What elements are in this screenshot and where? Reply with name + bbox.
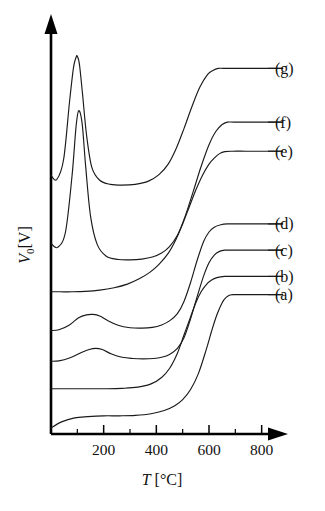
x-axis-title: T [°C] bbox=[142, 471, 183, 488]
x-tick-label-400: 400 bbox=[145, 441, 169, 458]
x-axis-unit: [°C] bbox=[155, 471, 183, 488]
series-label-b: (b) bbox=[275, 268, 294, 286]
x-tick-label-600: 600 bbox=[197, 441, 221, 458]
x-tick-label-800: 800 bbox=[250, 441, 274, 458]
series-label-e: (e) bbox=[275, 143, 293, 161]
series-label-c: (c) bbox=[275, 242, 293, 260]
series-label-a: (a) bbox=[275, 286, 293, 304]
series-label-f: (f) bbox=[275, 114, 291, 132]
line-chart: 200400600800 (a)(b)(c)(d)(e)(f)(g) T [°C… bbox=[0, 0, 325, 511]
y-axis-unit: [V] bbox=[16, 226, 33, 248]
x-axis-title-text: T [°C] bbox=[142, 471, 183, 488]
series-label-g: (g) bbox=[275, 60, 294, 78]
series-label-d: (d) bbox=[275, 215, 294, 233]
figure-container: 200400600800 (a)(b)(c)(d)(e)(f)(g) T [°C… bbox=[0, 0, 325, 511]
x-tick-label-200: 200 bbox=[92, 441, 116, 458]
